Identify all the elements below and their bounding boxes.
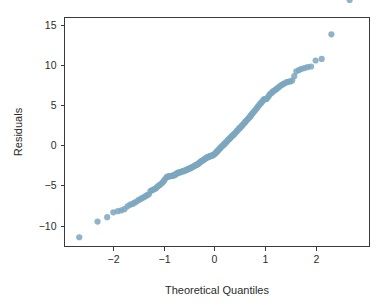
scatter-point	[94, 218, 100, 224]
x-tick-label: −1	[159, 253, 171, 265]
scatter-point	[308, 63, 314, 69]
qq-plot-figure: −10−5051015 −2−1012 Theoretical Quantile…	[0, 0, 386, 307]
x-tick-label: 1	[263, 253, 269, 265]
x-tick-label: −2	[108, 253, 120, 265]
scatter-point	[313, 57, 319, 63]
scatter-point	[319, 56, 325, 62]
y-tick-label: 5	[51, 99, 57, 111]
x-axis-title: Theoretical Quantiles	[165, 284, 269, 296]
x-tick-label: 0	[212, 253, 218, 265]
y-tick-label: 10	[45, 59, 57, 71]
y-tick-label: −10	[39, 220, 57, 232]
scatter-point	[328, 31, 334, 37]
scatter-point	[76, 234, 82, 240]
x-tick-label: 2	[314, 253, 320, 265]
scatter-point	[104, 214, 110, 220]
y-tick-label: 15	[45, 19, 57, 31]
y-tick-label: 0	[51, 139, 57, 151]
plot-area-background	[64, 17, 370, 247]
y-tick-label: −5	[45, 179, 57, 191]
qq-plot-svg: −10−5051015 −2−1012 Theoretical Quantile…	[0, 0, 386, 307]
y-axis-title: Residuals	[12, 107, 24, 156]
